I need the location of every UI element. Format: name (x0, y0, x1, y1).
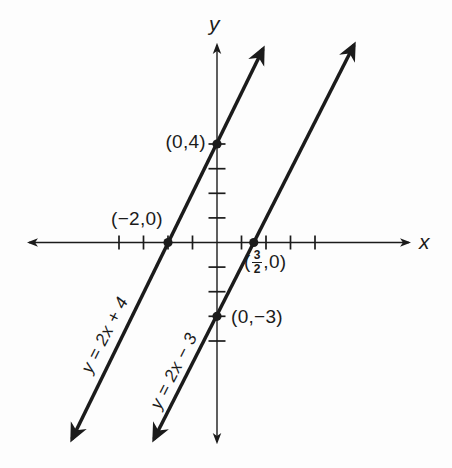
coordinate-plane-figure: y x (0,4) (−2,0) (0,−3) (32,0) y = 2x + … (0, 0, 452, 468)
point-three-halves-0 (249, 238, 258, 247)
frac-close-text: ,0) (263, 252, 286, 273)
point-label-three-halves-0: (32,0) (244, 249, 286, 275)
x-axis-label: x (419, 230, 430, 253)
point-label-neg2-0: (−2,0) (111, 209, 163, 230)
fraction-numerator: 3 (252, 249, 263, 263)
point-label-0-neg3: (0,−3) (231, 307, 283, 328)
frac-open-paren: ( (244, 252, 251, 273)
marked-points (163, 139, 258, 321)
point-label-0-4: (0,4) (156, 132, 206, 153)
y-axis-label: y (209, 12, 220, 35)
graph-canvas (0, 0, 452, 468)
fraction-three-halves: 32 (252, 249, 263, 275)
point-0-neg3 (212, 312, 221, 321)
fraction-denominator: 2 (252, 263, 263, 276)
point-neg2-0 (163, 238, 172, 247)
point-0-4 (212, 139, 221, 148)
